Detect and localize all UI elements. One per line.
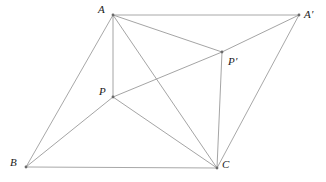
segment-a-pp <box>113 15 222 52</box>
vertex-label-a: A <box>98 4 105 15</box>
vertex-marker-a <box>112 14 115 17</box>
segment-b-p <box>26 97 113 167</box>
vertex-marker-ap <box>298 14 301 17</box>
segment-b-c <box>26 167 217 168</box>
vertex-markers-group <box>25 14 301 170</box>
vertex-label-b: B <box>10 157 17 168</box>
segment-p-pp <box>113 52 222 97</box>
segment-pp-c <box>217 52 222 168</box>
vertex-marker-c <box>216 167 219 170</box>
vertex-marker-pp <box>221 51 224 54</box>
segment-a-c <box>113 15 217 168</box>
geometry-figure: AA′BCPP′ <box>0 0 326 182</box>
vertex-label-ap: A′ <box>304 9 314 20</box>
vertex-label-pp: P′ <box>228 56 238 67</box>
vertex-marker-p <box>112 96 115 99</box>
segments-group <box>26 15 299 168</box>
segment-c-ap <box>217 15 299 168</box>
figure-canvas <box>0 0 326 182</box>
vertex-label-p: P <box>99 86 106 97</box>
segment-p-c <box>113 97 217 168</box>
segment-pp-ap <box>222 15 299 52</box>
vertex-marker-b <box>25 166 28 169</box>
vertex-label-c: C <box>222 159 230 170</box>
